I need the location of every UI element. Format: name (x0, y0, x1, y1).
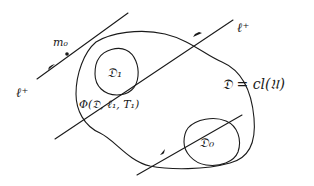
line-through-D0 (137, 115, 242, 175)
point-m0 (65, 52, 69, 56)
label-D1: 𝔇₁ (107, 66, 122, 79)
label-l-plus-left: ℓ⁺ (16, 86, 28, 99)
arrowhead-D0-line (160, 149, 165, 155)
label-m0: m₀ (53, 37, 68, 48)
label-neighborhood-phi: Φ(𝔇, ℓ₁, T₁) (79, 99, 139, 110)
label-D0: 𝔇₀ (199, 136, 214, 149)
diagram-canvas (0, 0, 314, 186)
arrowhead-D1-line (193, 32, 202, 37)
label-domain-equation: 𝔇 = cl(𝔘) (222, 77, 285, 91)
line-through-D1 (55, 20, 233, 139)
label-l-plus-right: ℓ⁺ (237, 21, 249, 34)
